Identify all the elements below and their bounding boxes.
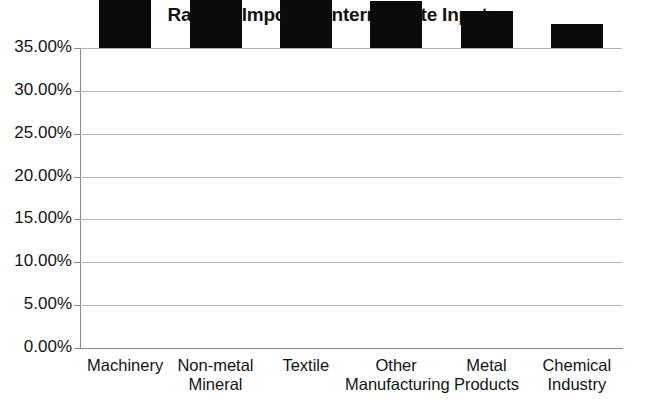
x-axis-tick-label: MetalProducts [435, 356, 537, 394]
y-axis-tick-label: 20.00% [0, 166, 72, 186]
y-axis-tick [74, 219, 80, 220]
x-axis-tick-label-line: Machinery [74, 356, 176, 375]
y-axis-tick [74, 348, 80, 349]
x-axis-tick-label-line: Industry [526, 375, 628, 394]
gridline [80, 219, 622, 220]
bar-chart: Ratio of Imported Intermediate Input 0.0… [0, 0, 655, 407]
bar[interactable] [551, 24, 603, 48]
y-axis-tick-label: 10.00% [0, 251, 72, 271]
bar[interactable] [99, 0, 151, 48]
x-axis-tick-label: Non-metalMineral [164, 356, 266, 394]
x-axis-tick-label-line: Metal [435, 356, 537, 375]
bar[interactable] [461, 11, 513, 48]
y-axis-tick-label: 30.00% [0, 80, 72, 100]
x-axis-tick-label-line: Mineral [164, 375, 266, 394]
x-axis-tick-label: Machinery [74, 356, 176, 375]
y-axis-tick-label: 15.00% [0, 208, 72, 228]
x-axis-tick-label-line: Products [435, 375, 537, 394]
x-axis-tick-label-line: Other [345, 356, 447, 375]
gridline [80, 48, 622, 49]
bar[interactable] [190, 0, 242, 48]
y-axis-tick [74, 48, 80, 49]
y-axis-tick [74, 177, 80, 178]
gridline [80, 262, 622, 263]
y-axis-tick-label: 25.00% [0, 123, 72, 143]
y-axis-tick [74, 91, 80, 92]
x-axis-tick-label-line: Chemical [526, 356, 628, 375]
gridline [80, 305, 622, 306]
y-axis-tick-label: 35.00% [0, 37, 72, 57]
bar[interactable] [370, 1, 422, 48]
bar[interactable] [280, 0, 332, 48]
gridline [80, 177, 622, 178]
gridline [80, 348, 622, 349]
y-axis-tick-label: 0.00% [0, 337, 72, 357]
y-axis-tick [74, 305, 80, 306]
y-axis-tick [74, 134, 80, 135]
x-axis-tick-label: Textile [255, 356, 357, 375]
x-axis-tick-label-line: Non-metal [164, 356, 266, 375]
plot-area [80, 48, 622, 348]
y-axis-tick-label: 5.00% [0, 294, 72, 314]
gridline [80, 134, 622, 135]
y-axis-tick [74, 262, 80, 263]
x-axis-tick-label: OtherManufacturing [345, 356, 447, 394]
gridline [80, 91, 622, 92]
x-axis-tick-label: ChemicalIndustry [526, 356, 628, 394]
x-axis-tick-label-line: Textile [255, 356, 357, 375]
x-axis-tick-label-line: Manufacturing [345, 375, 447, 394]
